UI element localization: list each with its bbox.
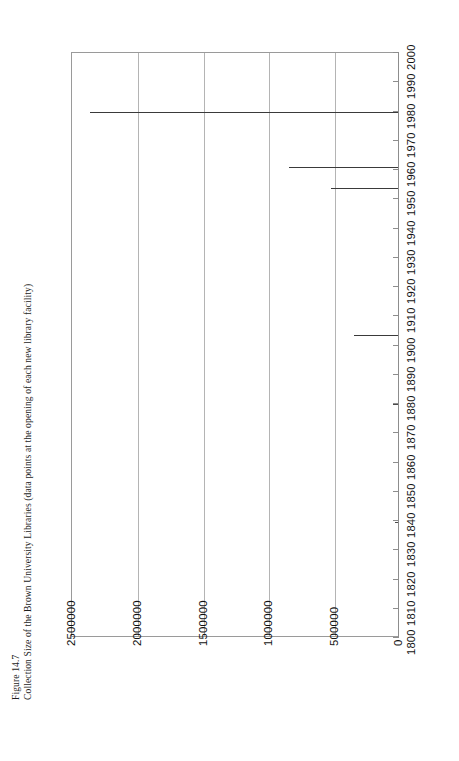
figure-title: Collection Size of the Brown University … [22,20,34,700]
category-label-1810: 1810 [405,600,417,626]
category-tick-1840 [393,520,398,521]
category-tick-1870 [393,432,398,433]
category-label-1990: 1990 [405,74,417,100]
category-label-1860: 1860 [405,454,417,480]
value-tick-0: 0 [392,639,404,646]
category-tick-1970 [393,140,398,141]
category-tick-1930 [393,257,398,258]
category-label-1890: 1890 [405,366,417,392]
category-tick-2000 [393,52,398,53]
category-axis-line [398,52,399,638]
category-label-1960: 1960 [405,161,417,187]
category-label-1970: 1970 [405,132,417,158]
value-tick-1500000: 1500000 [197,600,209,646]
figure-caption-rotated: Figure 14.7 Collection Size of the Brown… [10,20,35,700]
value-tick-2500000: 2500000 [65,600,77,646]
category-label-1840: 1840 [405,512,417,538]
bar-1910 [354,335,399,336]
category-label-1930: 1930 [405,249,417,275]
category-label-2000: 2000 [405,44,417,70]
category-tick-1810 [393,608,398,609]
category-tick-1980 [393,111,398,112]
gridline-500000 [335,53,336,636]
category-tick-1830 [393,549,398,550]
category-tick-1900 [393,345,398,346]
gridline-1000000 [269,53,270,636]
category-tick-1920 [393,286,398,287]
category-label-1900: 1900 [405,337,417,363]
gridline-2000000 [138,53,139,636]
category-label-1850: 1850 [405,483,417,509]
category-tick-1960 [393,169,398,170]
category-label-1880: 1880 [405,395,417,421]
category-label-1820: 1820 [405,571,417,597]
category-label-1980: 1980 [405,103,417,129]
bar-1990 [90,112,399,113]
category-tick-1820 [393,579,398,580]
category-label-1920: 1920 [405,278,417,304]
chart-plot-area [71,52,398,637]
category-tick-1880 [393,403,398,404]
figure-number: Figure 14.7 [10,20,22,700]
category-label-1910: 1910 [405,308,417,334]
category-tick-1850 [393,491,398,492]
category-label-1830: 1830 [405,542,417,568]
category-label-1870: 1870 [405,425,417,451]
value-tick-1000000: 1000000 [262,600,274,646]
category-tick-1940 [393,228,398,229]
value-tick-500000: 500000 [328,607,340,646]
figure-page: Figure 14.7 Collection Size of the Brown… [0,0,459,761]
bar-1962 [331,188,399,189]
bar-1970 [289,167,399,168]
category-label-1950: 1950 [405,191,417,217]
category-tick-1990 [393,81,398,82]
figure-caption-block: Figure 14.7 Collection Size of the Brown… [0,0,46,761]
category-tick-1890 [393,374,398,375]
gridline-1500000 [204,53,205,636]
category-tick-1800 [393,637,398,638]
category-tick-1860 [393,462,398,463]
category-label-1800: 1800 [405,629,417,655]
category-tick-1910 [393,315,398,316]
category-tick-1950 [393,198,398,199]
value-tick-2000000: 2000000 [131,600,143,646]
category-label-1940: 1940 [405,220,417,246]
